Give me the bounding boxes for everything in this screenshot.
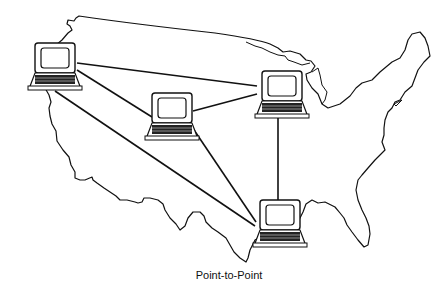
computer-west-icon <box>28 43 82 90</box>
diagram-caption: Point-to-Point <box>0 269 446 281</box>
computer-central-icon <box>145 93 199 140</box>
link-west-northeast <box>77 63 257 86</box>
network-links <box>55 63 278 226</box>
link-central-northeast <box>193 94 257 111</box>
great-lakes-outline <box>246 42 310 65</box>
us-map-outline <box>40 16 430 262</box>
link-west-central <box>77 70 152 117</box>
computer-northeast-icon <box>255 71 309 118</box>
point-to-point-diagram <box>0 0 446 290</box>
computer-south-icon <box>253 200 307 247</box>
link-central-south <box>190 124 256 222</box>
